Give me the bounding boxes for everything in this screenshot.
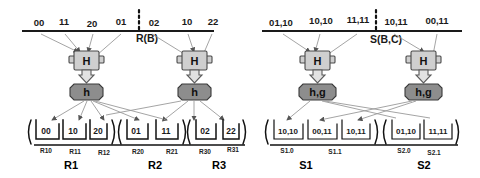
cell-R2-1: 11 [162,126,171,136]
edge-top-to-H-s2 [327,34,357,55]
sublabel-S2-0: S2.0 [397,147,411,154]
sublabel-R31: R31 [227,146,239,153]
group-label-R1: R1 [64,159,78,171]
cell-R1-1: 10 [68,126,78,136]
hash-fn-box-left-1: h [70,84,103,100]
edge-top-to-H-r0 [152,34,186,55]
hash-box-right-1: H [300,51,335,83]
sublabel-R12: R12 [98,149,110,156]
sublabel-R20: R20 [132,148,144,155]
cell-S1-2: 10,11 [346,127,366,136]
sublabel-R11: R11 [69,148,81,155]
top-tuple-right-2: 11,11 [347,14,370,25]
edge-h-to-cell-s-1 [322,101,396,118]
edge-top-to-H-s0 [283,34,310,52]
cell-R1-2: 20 [93,126,103,136]
sublabel-S1-0: S1.0 [280,147,294,154]
edge-top-to-H-l2 [88,34,93,52]
edge-h-to-cell-l-2 [91,101,104,120]
top-tuple-left-1: 11 [59,16,70,27]
diagram-canvas: 00 11 20 01 02 10 22 R(B) H [0,0,480,178]
hash-fn-box-right-1-label: h,g [309,86,326,98]
edge-h-to-cell-l-5 [106,101,181,115]
group-label-R2: R2 [148,159,162,171]
thick-down-arrow-right-2 [416,70,431,83]
cell-R2-0: 01 [131,126,141,136]
relation-name-right: S(B,C) [370,33,402,45]
sublabel-R10: R10 [40,147,52,154]
edge-top-to-H-r1 [188,34,194,52]
top-tuple-left-4: 02 [149,17,160,28]
hash-fn-box-right-2: h,g [405,84,442,100]
relation-group-left: 00 11 20 01 02 10 22 R(B) H [22,10,246,171]
cell-S2-0: 01,10 [396,127,417,136]
thick-down-arrow-left-1 [79,70,94,83]
hash-fn-box-left-2: h [178,84,211,100]
relation-group-right: 01,10 10,10 11,11 10,11 00,11 S(B,C) H [262,10,462,171]
cell-R1-0: 00 [41,126,51,136]
hash-box-left-2: H [177,51,212,83]
top-tuple-left-2: 20 [87,18,98,29]
edge-h-to-cell-l-1 [79,101,87,120]
edge-top-to-H-l3 [97,34,121,55]
edge-h-to-cell-l-8 [200,101,224,120]
top-tuple-right-3: 10,11 [384,16,408,27]
hash-box-left-2-label: H [191,55,199,67]
cell-S2-1: 11,11 [428,127,448,136]
top-tuple-right-0: 01,10 [269,17,293,28]
hash-box-left-1: H [69,51,104,83]
hash-box-right-2: H [406,51,441,83]
top-tuple-left-6: 22 [208,16,219,27]
thick-down-arrow-right-1 [310,70,325,83]
hash-fn-box-right-2-label: h,g [415,86,432,98]
top-tuple-left-0: 00 [34,17,45,28]
edge-h-to-cell-s-0 [287,101,310,120]
top-tuple-right-4: 00,11 [425,15,449,26]
top-tuple-right-1: 10,10 [309,15,333,26]
hash-box-right-1-label: H [314,55,322,67]
hash-fn-box-left-1-label: h [83,86,90,98]
hash-box-right-2-label: H [420,55,428,67]
hash-fn-box-left-2-label: h [191,86,198,98]
group-label-S1: S1 [299,159,312,171]
group-label-S2: S2 [417,159,430,171]
edge-top-to-H-s1 [315,34,320,52]
cell-S1-0: 10,10 [278,127,299,136]
relation-name-left: R(B) [136,32,158,44]
sublabel-S1-1: S1.1 [328,148,342,155]
hash-fn-box-right-1: h,g [299,84,336,100]
top-tuple-left-5: 10 [182,16,193,27]
cell-R3-0: 02 [200,126,210,136]
top-tuple-left-3: 01 [116,16,127,27]
partition-hash-diagram: 00 11 20 01 02 10 22 R(B) H [0,0,480,178]
sublabel-R30: R30 [199,148,211,155]
hash-box-left-1-label: H [83,55,91,67]
cell-R3-1: 22 [226,126,236,136]
edge-h-to-cell-l-0 [52,101,84,120]
sublabel-S2-1: S2.1 [427,149,441,156]
thick-down-arrow-left-2 [187,70,202,83]
group-label-R3: R3 [212,159,226,171]
sublabel-R21: R21 [166,148,178,155]
cell-S1-1: 00,11 [312,127,332,136]
